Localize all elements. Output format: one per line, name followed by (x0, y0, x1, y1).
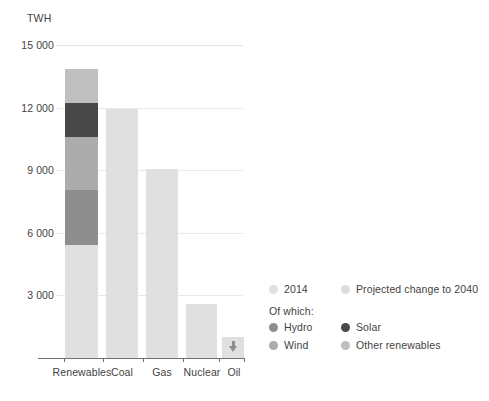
bar-segment-wind (65, 137, 98, 190)
y-axis-tick-label: 6 000 (0, 227, 54, 239)
legend-item-wind[interactable]: Wind (269, 339, 308, 351)
legend-label-other-renewables: Other renewables (356, 339, 440, 351)
y-axis-tick-label: 3 000 (0, 289, 54, 301)
x-axis-tick (103, 358, 104, 362)
legend-swatch-2014 (269, 285, 278, 294)
arrow-down-icon (229, 341, 238, 352)
x-axis-tick (143, 358, 144, 362)
x-axis-label-coal: Coal (100, 366, 144, 378)
y-axis-tick: 3 000 (0, 289, 54, 301)
bar-segment-2014 (65, 245, 98, 358)
legend-label-solar: Solar (356, 321, 381, 333)
bar-renewables[interactable] (65, 70, 98, 358)
x-axis-tick (219, 358, 220, 362)
y-axis-tick: 6 000 (0, 227, 54, 239)
legend-label-wind: Wind (284, 339, 308, 351)
legend-row-note: Of which: (269, 301, 487, 321)
legend-swatch-other-renewables (341, 341, 350, 350)
x-axis-tick (244, 358, 245, 362)
y-axis-tick: 12 000 (0, 102, 54, 114)
legend-item-2014[interactable]: 2014 (269, 283, 308, 295)
legend-item-hydro[interactable]: Hydro (269, 321, 313, 333)
bar-segment-2014 (106, 109, 138, 358)
legend-label-projected-change: Projected change to 2040 (356, 283, 478, 295)
bar-chart: TWH 15 00012 0009 0006 0003 000 Renewabl… (0, 0, 489, 401)
legend-swatch-wind (269, 341, 278, 350)
legend-label-2014: 2014 (284, 283, 308, 295)
legend-label-hydro: Hydro (284, 321, 313, 333)
y-axis-tick: 15 000 (0, 39, 54, 51)
legend-row-main: 2014 Projected change to 2040 (269, 283, 487, 301)
gridline (56, 45, 243, 46)
bar-segment-2014 (146, 169, 178, 358)
x-axis-tick (64, 358, 65, 362)
legend-note-of-which: Of which: (269, 305, 314, 317)
y-axis-unit-label: TWH (27, 12, 52, 24)
legend-item-other-renewables[interactable]: Other renewables (341, 339, 440, 351)
legend-swatch-hydro (269, 323, 278, 332)
y-axis-tick-label: 9 000 (0, 164, 54, 176)
y-axis-tick-label: 12 000 (0, 102, 54, 114)
bar-gas[interactable] (146, 169, 178, 358)
bar-coal[interactable] (106, 109, 138, 358)
x-axis-tick (183, 358, 184, 362)
bar-segment-other-renewables (65, 69, 98, 103)
legend-row-hydro-solar: Hydro Solar (269, 321, 487, 339)
x-axis-label-oil: Oil (214, 366, 254, 378)
legend: 2014 Projected change to 2040 Of which: … (269, 283, 487, 357)
x-axis-line (38, 358, 245, 359)
bar-segment-2014 (186, 304, 217, 358)
bar-segment-hydro (65, 190, 98, 245)
legend-swatch-solar (341, 323, 350, 332)
legend-item-projected-change[interactable]: Projected change to 2040 (341, 283, 478, 295)
legend-swatch-projected-change (341, 285, 350, 294)
legend-row-wind-other: Wind Other renewables (269, 339, 487, 357)
legend-item-solar[interactable]: Solar (341, 321, 381, 333)
y-axis-tick: 9 000 (0, 164, 54, 176)
bar-nuclear[interactable] (186, 304, 217, 358)
y-axis-tick-label: 15 000 (0, 39, 54, 51)
bar-segment-solar (65, 103, 98, 136)
